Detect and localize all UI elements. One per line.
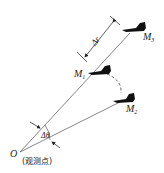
label-m3: M3 bbox=[142, 31, 154, 43]
plane-icon-m2 bbox=[113, 93, 135, 103]
ray-to-m2 bbox=[20, 102, 120, 152]
label-observation-point: (观测点) bbox=[22, 157, 52, 166]
label-delta-r: Δr bbox=[88, 34, 102, 48]
ray-to-m3 bbox=[20, 33, 130, 152]
label-m2: M2 bbox=[125, 103, 137, 115]
dashed-arc bbox=[107, 74, 121, 93]
label-origin: O bbox=[10, 148, 17, 159]
label-m1: M1 bbox=[73, 68, 85, 80]
radar-resolution-diagram: M3 M1 M2 Δr Δθ O (观测点) bbox=[0, 0, 164, 173]
label-delta-theta: Δθ bbox=[40, 131, 50, 140]
